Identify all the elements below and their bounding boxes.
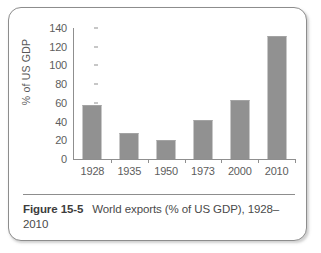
bar-slot (111, 28, 148, 159)
bar-chart: % of US GDP 020406080100120140 192819351… (9, 8, 308, 180)
bar (83, 105, 102, 159)
x-axis-tick-label: 2000 (220, 165, 260, 177)
bar-slot (148, 28, 185, 159)
x-axis-tick-mark (148, 159, 149, 163)
bar-slot (258, 28, 295, 159)
x-axis-tick-mark (111, 159, 112, 163)
figure-card: % of US GDP 020406080100120140 192819351… (8, 7, 307, 241)
x-axis-tick-label: 2010 (257, 165, 297, 177)
y-axis-tick-label: 100 (33, 59, 67, 71)
y-axis-tick-label: 120 (33, 41, 67, 53)
y-axis-tick-label: 20 (33, 134, 67, 146)
y-axis-tick-label: 80 (33, 78, 67, 90)
x-axis-tick-mark (295, 159, 296, 163)
bar (230, 100, 249, 159)
bar (157, 140, 176, 159)
figure-label: Figure 15-5 (23, 203, 83, 215)
y-axis-tick-label: 60 (33, 97, 67, 109)
figure-caption: Figure 15-5World exports (% of US GDP), … (23, 202, 295, 232)
y-axis-tick-label: 0 (33, 153, 67, 165)
x-axis-tick-mark (258, 159, 259, 163)
bar (267, 36, 286, 159)
x-axis-tick-mark (185, 159, 186, 163)
x-axis-tick-label: 1935 (109, 165, 149, 177)
bar-slot (74, 28, 111, 159)
bar-slot (185, 28, 222, 159)
y-axis-title: % of US GDP (20, 17, 32, 127)
x-axis-tick-mark (221, 159, 222, 163)
plot-area (74, 28, 295, 159)
y-axis-tick-label: 140 (33, 22, 67, 34)
caption-divider (23, 194, 295, 195)
bar-slot (221, 28, 258, 159)
x-axis-tick-label: 1928 (72, 165, 112, 177)
x-axis-tick-label: 1973 (183, 165, 223, 177)
bar (193, 120, 212, 159)
y-axis-tick-label: 40 (33, 116, 67, 128)
y-axis-tick-labels: 020406080100120140 (33, 22, 67, 160)
x-axis-tick-label: 1950 (146, 165, 186, 177)
bar (120, 133, 139, 159)
